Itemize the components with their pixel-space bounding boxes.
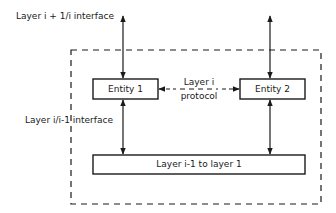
entity-2-label: Entity 2	[240, 84, 305, 95]
lower-interface-label: Layer i/i-1 interface	[25, 115, 113, 126]
protocol-label-line1: Layer i	[176, 77, 222, 87]
lower-layers-label: Layer i-1 to layer 1	[93, 159, 305, 170]
layer-i-boundary	[71, 50, 321, 204]
protocol-label-line2: protocol	[176, 91, 222, 101]
diagram-canvas	[0, 0, 336, 213]
upper-interface-label: Layer i + 1/i interface	[16, 11, 114, 22]
entity-1-label: Entity 1	[93, 84, 158, 95]
